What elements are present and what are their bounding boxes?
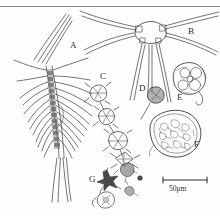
specimen-a-copepod (14, 14, 92, 202)
panel-label-a: A (70, 41, 77, 50)
plate-artwork (0, 0, 220, 216)
figure-plate: A B C D E F G 50μm (0, 0, 220, 216)
panel-label-f: F (194, 140, 199, 149)
panel-label-c: C (100, 72, 106, 81)
panel-label-b: B (188, 27, 194, 36)
scale-bar-graphic (163, 177, 207, 183)
scale-bar-label: 50μm (169, 184, 186, 193)
specimen-b-stellate (80, 11, 219, 102)
panel-label-e: E (177, 93, 183, 102)
specimen-f-aggregate (149, 110, 201, 157)
specimen-c-chain (84, 82, 140, 168)
panel-label-d: D (139, 84, 146, 93)
panel-label-g: G (89, 175, 96, 184)
